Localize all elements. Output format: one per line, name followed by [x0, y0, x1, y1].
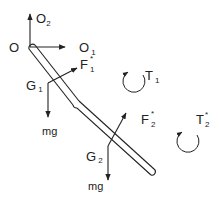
torque-t2-label: T	[196, 112, 204, 127]
weight-1-label: mg	[42, 125, 57, 137]
torque-t2-sub: 2	[205, 120, 210, 129]
force-f2-sub: 2	[151, 120, 156, 129]
force-f1-sub: 1	[90, 65, 95, 74]
g2-label: G2	[86, 149, 103, 165]
force-f2-label: F	[141, 112, 149, 127]
torque-t2-arrow	[177, 132, 199, 152]
torque-t1-label: T1	[145, 68, 160, 85]
force-f2-sup: *	[151, 109, 154, 118]
torque-t2-sup: *	[205, 110, 208, 119]
force-f1-sup: *	[90, 54, 93, 63]
origin-label: O	[9, 40, 19, 55]
pendulum-diagram: O O2 O1 F * 1 G1 mg T1 F * 2 T * 2 G2 mg	[0, 0, 222, 201]
g1-label: G1	[26, 78, 43, 94]
axis-o1-label: O1	[79, 40, 96, 57]
torque-t1-arrow	[123, 72, 145, 92]
weight-2-label: mg	[88, 180, 103, 192]
axis-o2-label: O2	[36, 11, 51, 28]
force-f1-label: F	[80, 57, 88, 72]
link-1	[29, 44, 79, 105]
